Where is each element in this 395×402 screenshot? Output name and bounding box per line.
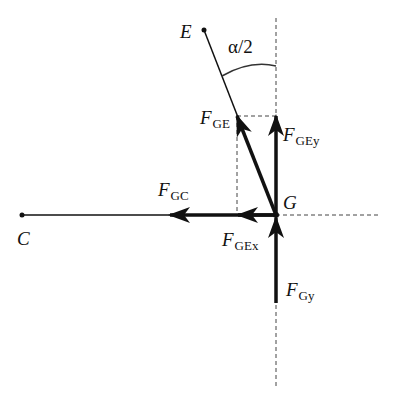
label-f-gy: FGy xyxy=(286,280,315,299)
construction-lines xyxy=(237,18,378,388)
label-g: G xyxy=(283,193,297,212)
force-diagram: E C G α/2 FGE FGEy FGC FGEx FGy xyxy=(0,0,395,402)
label-angle: α/2 xyxy=(228,37,253,56)
force-subscript: GE xyxy=(213,116,230,131)
force-symbol: F xyxy=(286,279,298,300)
force-subscript: Gy xyxy=(299,288,315,303)
angle-arc xyxy=(222,64,276,76)
label-f-ge: FGE xyxy=(200,108,230,127)
point-g-dot xyxy=(273,212,279,218)
force-subscript: GEy xyxy=(296,133,320,148)
point-c-dot xyxy=(20,213,25,218)
force-subscript: GEx xyxy=(235,238,259,253)
force-symbol: F xyxy=(158,179,170,200)
label-c: C xyxy=(17,229,30,248)
force-symbol: F xyxy=(283,124,295,145)
point-e-dot xyxy=(202,28,207,33)
label-f-gc: FGC xyxy=(158,180,189,199)
diagram-graphics xyxy=(0,0,395,402)
label-f-gex: FGEx xyxy=(222,230,258,249)
force-symbol: F xyxy=(222,229,234,250)
force-symbol: F xyxy=(200,107,212,128)
arrow-f-ge xyxy=(237,116,276,215)
label-e: E xyxy=(180,22,192,41)
label-f-gey: FGEy xyxy=(283,125,319,144)
force-subscript: GC xyxy=(171,188,189,203)
